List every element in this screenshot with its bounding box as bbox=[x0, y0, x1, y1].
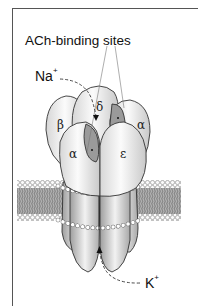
ach-binding-sites-label: ACh-binding sites bbox=[25, 33, 131, 48]
potassium-charge: + bbox=[154, 273, 159, 282]
subunit-label-epsilon: ε bbox=[120, 147, 126, 161]
subunit-label-alpha-right: α bbox=[137, 118, 145, 132]
subunit-label-beta: β bbox=[57, 118, 64, 132]
sodium-symbol: Na bbox=[35, 68, 53, 84]
binding-site-dot-right bbox=[117, 117, 119, 119]
potassium-symbol: K bbox=[145, 275, 154, 291]
binding-site-dot-left bbox=[91, 149, 93, 151]
sodium-ion-label: Na+ bbox=[35, 68, 58, 84]
subunit-label-alpha-left: α bbox=[69, 147, 77, 161]
subunit-label-delta: δ bbox=[96, 100, 103, 114]
sodium-charge: + bbox=[53, 66, 58, 75]
potassium-ion-label: K+ bbox=[145, 275, 159, 291]
